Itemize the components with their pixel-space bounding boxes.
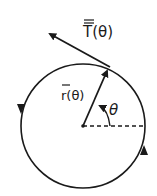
diagram-canvas: T(θ) r(θ) θ [0, 0, 157, 196]
position-vector-arrow [83, 71, 107, 126]
position-vector-label: r(θ) [61, 88, 84, 103]
tangent-vector-label: T(θ) [82, 23, 113, 41]
angle-label: θ [109, 101, 118, 119]
